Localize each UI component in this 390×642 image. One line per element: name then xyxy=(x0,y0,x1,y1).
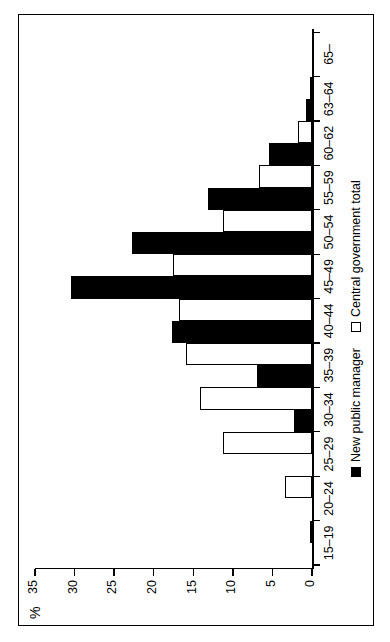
bar xyxy=(310,521,312,543)
category-tick xyxy=(313,564,320,565)
percent-axis-label: % xyxy=(27,607,43,619)
bar-chart: % 05101520253035 15–1920–2425–2930–3435–… xyxy=(19,15,375,627)
category-tick xyxy=(313,431,320,432)
bar xyxy=(259,165,312,187)
rotation-host: % 05101520253035 15–1920–2425–2930–3435–… xyxy=(19,15,375,627)
value-tick: 10 xyxy=(232,569,233,576)
value-tick-label: 30 xyxy=(66,580,80,594)
bar xyxy=(257,365,312,387)
value-tick-label: 10 xyxy=(224,580,238,594)
value-tick: 20 xyxy=(153,569,154,576)
bar xyxy=(269,143,312,165)
value-tick: 0 xyxy=(311,569,312,576)
value-tick: 30 xyxy=(74,569,75,576)
bar xyxy=(173,254,312,276)
value-tick-label: 5 xyxy=(264,580,278,587)
bar xyxy=(310,77,312,99)
bar xyxy=(223,432,312,454)
rotation-inner: % 05101520253035 15–1920–2425–2930–3435–… xyxy=(19,15,375,627)
value-tick: 25 xyxy=(113,569,114,576)
value-tick-label: 15 xyxy=(185,580,199,594)
bar xyxy=(208,188,312,210)
legend-entry: New public manager xyxy=(349,348,363,477)
category-tick xyxy=(313,209,320,210)
legend-entry: Central government total xyxy=(349,180,363,332)
bar xyxy=(186,343,312,365)
category-tick xyxy=(313,387,320,388)
category-tick xyxy=(313,476,320,477)
value-tick: 5 xyxy=(272,569,273,576)
category-tick xyxy=(313,32,320,33)
category-tick xyxy=(313,76,320,77)
legend-label: New public manager xyxy=(349,348,363,462)
value-tick: 35 xyxy=(34,569,35,576)
bar xyxy=(306,99,312,121)
category-label: 65– xyxy=(322,24,336,84)
bar xyxy=(294,410,312,432)
category-tick xyxy=(313,120,320,121)
legend-swatch-icon xyxy=(351,467,361,477)
value-tick-label: 0 xyxy=(303,580,317,587)
legend-label: Central government total xyxy=(349,180,363,317)
category-tick xyxy=(313,165,320,166)
bar xyxy=(223,210,312,232)
category-tick xyxy=(313,520,320,521)
bar xyxy=(298,121,312,143)
value-tick-label: 35 xyxy=(26,580,40,594)
value-tick: 15 xyxy=(193,569,194,576)
value-tick-label: 20 xyxy=(145,580,159,594)
bar xyxy=(179,299,312,321)
category-tick xyxy=(313,342,320,343)
bar xyxy=(132,232,312,254)
legend-swatch-icon xyxy=(351,322,361,332)
category-tick xyxy=(313,298,320,299)
value-tick-label: 25 xyxy=(105,580,119,594)
bar xyxy=(71,276,312,298)
category-tick xyxy=(313,254,320,255)
figure-frame: % 05101520253035 15–1920–2425–2930–3435–… xyxy=(18,14,374,626)
bar xyxy=(200,387,312,409)
bar xyxy=(172,321,312,343)
legend: New public managerCentral government tot… xyxy=(349,180,363,477)
bar xyxy=(285,476,312,498)
